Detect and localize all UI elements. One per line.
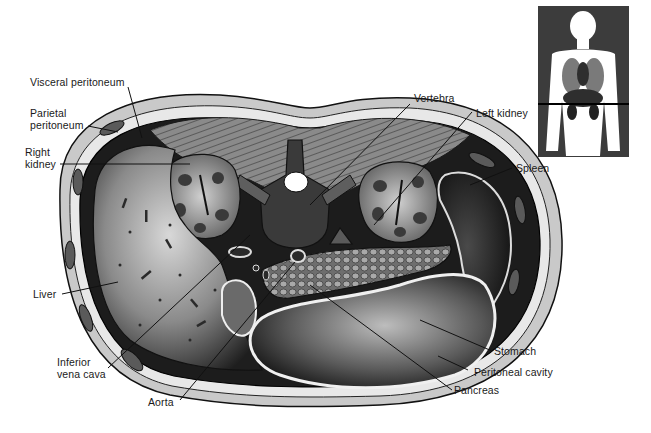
label-visceral-peritoneum: Visceral peritoneum [30, 76, 125, 88]
anatomy-diagram: Visceral peritoneum Parietal peritoneum … [0, 0, 651, 433]
label-pancreas: Pancreas [454, 384, 499, 396]
label-inferior-vena-cava-line2: vena cava [57, 368, 106, 380]
label-right-kidney-line2: kidney [25, 158, 56, 170]
label-left-kidney: Left kidney [476, 107, 528, 119]
label-aorta: Aorta [148, 396, 174, 408]
aorta-shape [291, 250, 305, 262]
label-parietal-peritoneum-line2: peritoneum [30, 119, 84, 131]
label-stomach: Stomach [494, 345, 536, 357]
label-spleen: Spleen [516, 162, 549, 174]
label-right-kidney-line1: Right [25, 146, 50, 158]
label-peritoneal-cavity: Peritoneal cavity [474, 366, 553, 378]
body-inset-figure [538, 6, 629, 157]
body-outline-icon [538, 6, 629, 157]
label-vertebra: Vertebra [414, 92, 455, 104]
label-parietal-peritoneum-line1: Parietal [30, 107, 66, 119]
label-liver: Liver [33, 288, 56, 300]
label-inferior-vena-cava-line1: Inferior [57, 356, 90, 368]
